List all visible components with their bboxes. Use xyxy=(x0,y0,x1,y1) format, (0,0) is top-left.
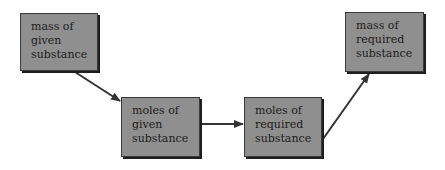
arrow-mass-given-to-moles-given xyxy=(75,72,120,101)
node-text-line: given xyxy=(132,118,193,132)
node-text-line: moles of xyxy=(132,104,193,118)
node-text-line: moles of xyxy=(255,104,315,118)
node-moles-of-required-substance: moles of required substance xyxy=(244,97,322,157)
node-text-line: substance xyxy=(132,132,193,146)
node-text-line: mass of xyxy=(31,20,91,34)
arrow-moles-required-to-mass-required xyxy=(323,74,369,139)
diagram-canvas: mass of given substance moles of given s… xyxy=(0,0,445,170)
node-mass-of-given-substance: mass of given substance xyxy=(20,13,98,71)
node-text-line: mass of xyxy=(356,19,417,33)
node-text-line: substance xyxy=(255,132,315,146)
node-moles-of-given-substance: moles of given substance xyxy=(121,97,200,157)
node-text-line: required xyxy=(255,118,315,132)
node-text-line: substance xyxy=(31,48,91,62)
node-text-line: substance xyxy=(356,47,417,61)
node-mass-of-required-substance: mass of required substance xyxy=(345,12,424,72)
node-text-line: given xyxy=(31,34,91,48)
node-text-line: required xyxy=(356,33,417,47)
